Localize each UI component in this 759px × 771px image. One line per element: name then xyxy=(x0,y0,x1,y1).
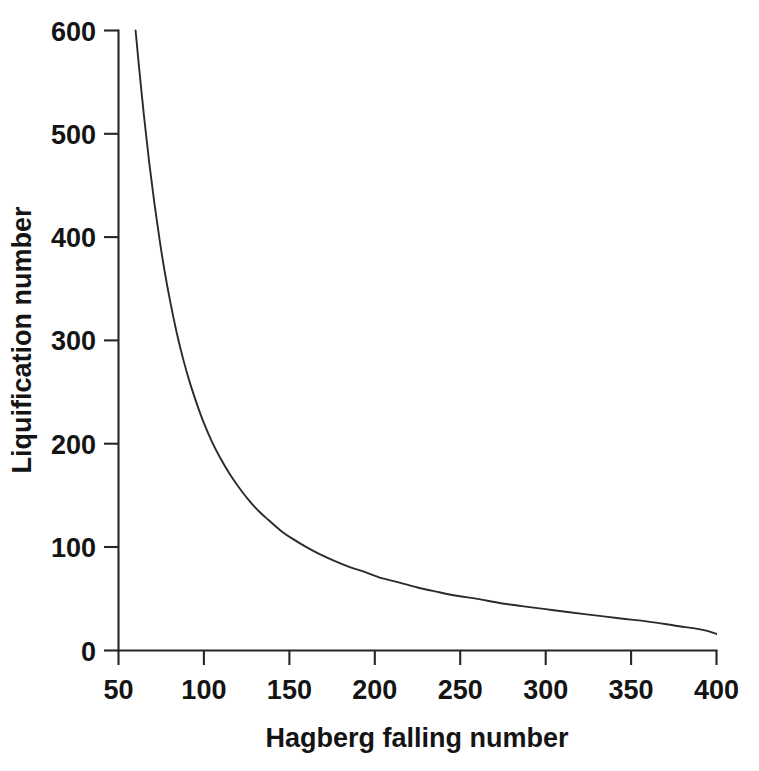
chart-figure: 600 500 400 300 200 100 0 50 100 150 200… xyxy=(0,0,759,771)
y-tick-label-500: 500 xyxy=(51,120,96,150)
x-tick-label-50: 50 xyxy=(103,675,133,705)
y-axis-title: Liquification number xyxy=(7,206,37,473)
x-tick-label-250: 250 xyxy=(438,675,483,705)
x-tick-label-400: 400 xyxy=(694,675,739,705)
x-tick-label-200: 200 xyxy=(352,675,397,705)
x-axis-ticks xyxy=(119,651,717,666)
data-series-line xyxy=(136,31,717,634)
y-tick-label-300: 300 xyxy=(51,326,96,356)
x-axis-tick-labels: 50 100 150 200 250 300 350 400 xyxy=(103,675,739,705)
y-axis-ticks xyxy=(104,31,119,651)
y-tick-label-100: 100 xyxy=(51,533,96,563)
y-tick-label-0: 0 xyxy=(81,637,96,667)
x-tick-label-350: 350 xyxy=(609,675,654,705)
y-tick-label-600: 600 xyxy=(51,17,96,47)
liquification-vs-hagberg-line-chart: 600 500 400 300 200 100 0 50 100 150 200… xyxy=(0,0,759,771)
y-axis-tick-labels: 600 500 400 300 200 100 0 xyxy=(51,17,96,667)
x-tick-label-100: 100 xyxy=(181,675,226,705)
axes-spines xyxy=(119,31,717,651)
y-tick-label-200: 200 xyxy=(51,430,96,460)
x-axis-title: Hagberg falling number xyxy=(265,723,569,753)
y-tick-label-400: 400 xyxy=(51,223,96,253)
x-tick-label-300: 300 xyxy=(523,675,568,705)
x-tick-label-150: 150 xyxy=(267,675,312,705)
